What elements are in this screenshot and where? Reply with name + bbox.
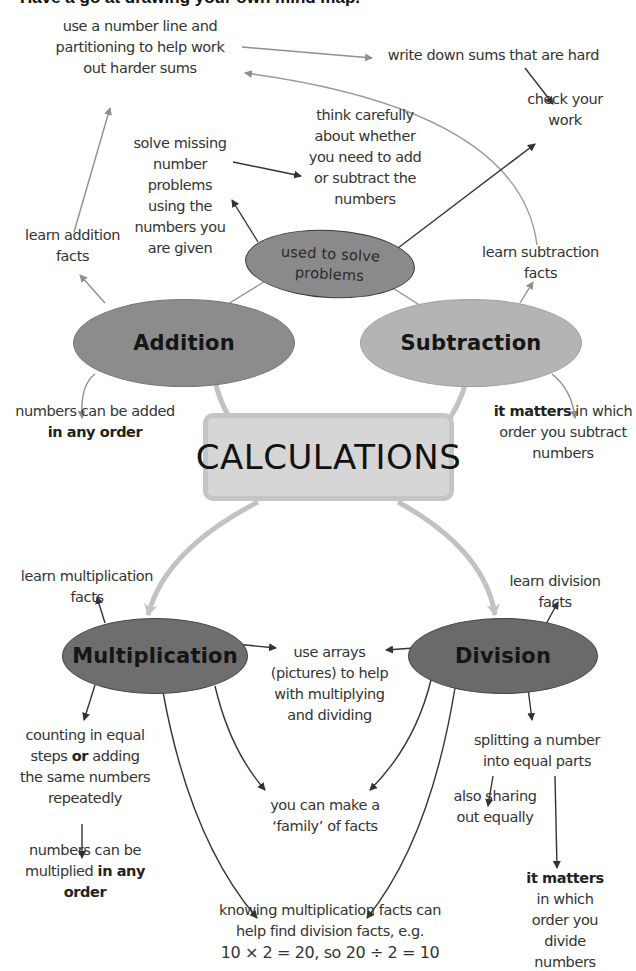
note-line: or subtract the bbox=[300, 168, 430, 189]
node-label: Subtraction bbox=[401, 331, 542, 355]
note-line: facts bbox=[12, 587, 162, 608]
note-number-line: use a number line and partitioning to he… bbox=[40, 16, 240, 79]
note-line: in which bbox=[520, 889, 610, 910]
note-bold: or bbox=[72, 748, 88, 764]
note-line: numbers bbox=[488, 443, 636, 464]
note-think-carefully: think carefully about whether you need t… bbox=[300, 105, 430, 210]
note-multiplied-any-order: numbers can be multiplied in any order bbox=[10, 840, 160, 903]
note-line: ‘family’ of facts bbox=[255, 816, 395, 837]
node-label: Multiplication bbox=[72, 644, 238, 668]
note-line: into equal parts bbox=[462, 751, 612, 772]
note-line: knowing multiplication facts can bbox=[195, 900, 465, 921]
note-line: 10 × 2 = 20, so 20 ÷ 2 = 10 bbox=[195, 942, 465, 963]
note-bold: it matters bbox=[494, 403, 571, 419]
note-line: numbers you bbox=[130, 217, 230, 238]
node-multiplication: Multiplication bbox=[62, 618, 248, 694]
note-line: work bbox=[515, 110, 615, 131]
note-line: numbers bbox=[300, 189, 430, 210]
note-bold: in any order bbox=[48, 424, 143, 440]
note-line: using the bbox=[130, 196, 230, 217]
note-line: are given bbox=[130, 238, 230, 259]
note-line: order you bbox=[520, 910, 610, 931]
note-line: numbers can be bbox=[10, 840, 160, 861]
note-line: learn subtraction bbox=[468, 242, 613, 263]
note-line: numbers can be added bbox=[5, 401, 185, 422]
note-line: use a number line and bbox=[40, 16, 240, 37]
note-line: write down sums that are hard bbox=[376, 45, 611, 66]
note-line: learn multiplication bbox=[12, 566, 162, 587]
central-label: CALCULATIONS bbox=[196, 437, 461, 477]
note-learn-addition: learn addition facts bbox=[15, 225, 130, 267]
note-line: use arrays bbox=[262, 642, 397, 663]
note-line: facts bbox=[468, 263, 613, 284]
note-line: you need to add bbox=[300, 147, 430, 168]
note-line: learn addition bbox=[15, 225, 130, 246]
note-learn-multiplication: learn multiplication facts bbox=[12, 566, 162, 608]
note-text: in which bbox=[571, 403, 632, 419]
note-line: facts bbox=[505, 592, 605, 613]
note-line: problems bbox=[130, 175, 230, 196]
note-line: numbers bbox=[520, 952, 610, 971]
note-line: you can make a bbox=[255, 795, 395, 816]
note-bold: it matters bbox=[526, 870, 603, 886]
note-splitting: splitting a number into equal parts bbox=[462, 730, 612, 772]
note-line: help find division facts, e.g. bbox=[195, 921, 465, 942]
note-line: about whether bbox=[300, 126, 430, 147]
node-addition: Addition bbox=[73, 299, 295, 387]
note-text: steps bbox=[31, 748, 72, 764]
note-line: repeatedly bbox=[10, 788, 160, 809]
note-family-facts: you can make a ‘family’ of facts bbox=[255, 795, 395, 837]
node-label: Addition bbox=[133, 331, 235, 355]
note-sharing: also sharing out equally bbox=[440, 786, 550, 828]
note-line: order you subtract bbox=[488, 422, 636, 443]
node-label: Division bbox=[455, 644, 551, 668]
note-use-arrays: use arrays (pictures) to help with multi… bbox=[262, 642, 397, 726]
note-line: number bbox=[130, 154, 230, 175]
note-divide-order: it matters in which order you divide num… bbox=[520, 868, 610, 971]
note-line: check your bbox=[515, 89, 615, 110]
note-line: learn division bbox=[505, 571, 605, 592]
note-line: counting in equal bbox=[10, 725, 160, 746]
note-added-any-order: numbers can be added in any order bbox=[5, 401, 185, 443]
note-write-down: write down sums that are hard bbox=[376, 45, 611, 66]
note-line: think carefully bbox=[300, 105, 430, 126]
note-line: facts bbox=[15, 246, 130, 267]
note-bold: order bbox=[64, 884, 106, 900]
node-label-line: problems bbox=[279, 261, 379, 286]
note-text: multiplied bbox=[25, 863, 98, 879]
note-line: (pictures) to help bbox=[262, 663, 397, 684]
note-knowing-facts: knowing multiplication facts can help fi… bbox=[195, 900, 465, 963]
note-line: partitioning to help work bbox=[40, 37, 240, 58]
note-line: with multiplying bbox=[262, 684, 397, 705]
note-line: splitting a number bbox=[462, 730, 612, 751]
central-topic: CALCULATIONS bbox=[203, 413, 454, 501]
page-heading: Have a go at drawing your own mind map. bbox=[20, 0, 360, 8]
note-solve-missing: solve missing number problems using the … bbox=[130, 133, 230, 259]
node-label: used to solve problems bbox=[279, 241, 380, 286]
note-line: also sharing bbox=[440, 786, 550, 807]
note-counting-equal: counting in equal steps or adding the sa… bbox=[10, 725, 160, 809]
note-learn-subtraction: learn subtraction facts bbox=[468, 242, 613, 284]
note-subtract-order: it matters in which order you subtract n… bbox=[488, 401, 636, 464]
note-line: the same numbers bbox=[10, 767, 160, 788]
note-line: solve missing bbox=[130, 133, 230, 154]
note-learn-division: learn division facts bbox=[505, 571, 605, 613]
note-line: out equally bbox=[440, 807, 550, 828]
node-division: Division bbox=[408, 618, 598, 694]
note-check-work: check your work bbox=[515, 89, 615, 131]
node-subtraction: Subtraction bbox=[360, 299, 582, 387]
note-text: adding bbox=[88, 748, 140, 764]
note-bold: in any bbox=[98, 863, 146, 879]
note-line: and dividing bbox=[262, 705, 397, 726]
note-line: out harder sums bbox=[40, 58, 240, 79]
note-line: divide bbox=[520, 931, 610, 952]
